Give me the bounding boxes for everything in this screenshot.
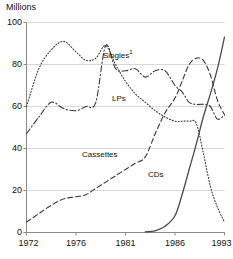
series-label-text: Cassettes bbox=[82, 150, 118, 159]
series-line-cassettes bbox=[27, 58, 225, 222]
x-tick-label: 1981 bbox=[109, 239, 143, 248]
y-tick-label: 100 bbox=[0, 18, 22, 27]
series-line-cds bbox=[145, 37, 224, 232]
chart-container: Millions 020406080100 197219761981198619… bbox=[0, 0, 232, 259]
series-label-footnote-marker: 1 bbox=[129, 49, 132, 55]
y-tick-label: 20 bbox=[0, 186, 22, 195]
y-tick-label: 0 bbox=[0, 228, 22, 237]
x-tick-label: 1972 bbox=[12, 239, 46, 248]
series-label-text: LPs bbox=[112, 94, 126, 103]
series-label-cassettes: Cassettes bbox=[82, 150, 118, 159]
x-tick-label: 1986 bbox=[158, 239, 192, 248]
x-tick-label: 1993 bbox=[205, 239, 233, 248]
y-tick-label: 80 bbox=[0, 60, 22, 69]
y-tick-label: 40 bbox=[0, 144, 22, 153]
series-label-text: CDs bbox=[148, 170, 164, 179]
series-lines bbox=[27, 37, 225, 232]
series-label-singles: Singles1 bbox=[103, 49, 133, 60]
series-line-lps bbox=[27, 41, 225, 222]
chart-plot-area bbox=[0, 0, 232, 259]
series-label-text: Singles bbox=[103, 51, 129, 60]
x-tick-label: 1976 bbox=[59, 239, 93, 248]
series-label-lps: LPs bbox=[112, 94, 126, 103]
series-label-cds: CDs bbox=[148, 170, 164, 179]
y-tick-label: 60 bbox=[0, 102, 22, 111]
